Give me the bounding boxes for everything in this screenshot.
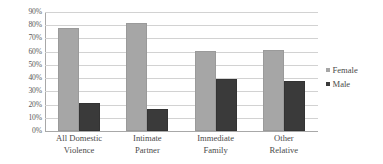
y-axis-tick-label: 90% bbox=[28, 8, 45, 16]
y-axis-tick-label: 20% bbox=[28, 101, 45, 109]
legend-swatch-icon bbox=[326, 82, 330, 86]
y-axis-tick-label: 10% bbox=[28, 114, 45, 122]
category-label: IntimatePartner bbox=[113, 133, 181, 156]
y-axis-tick-label: 70% bbox=[28, 35, 45, 43]
category-label: OtherRelative bbox=[250, 133, 318, 156]
chart-legend: FemaleMale bbox=[326, 63, 383, 91]
bars-layer bbox=[45, 12, 318, 131]
bar-female bbox=[195, 51, 216, 131]
bar-group bbox=[58, 12, 100, 131]
legend-label: Female bbox=[333, 66, 358, 75]
bar-female bbox=[126, 23, 147, 131]
legend-item-female[interactable]: Female bbox=[326, 63, 383, 77]
bar-male bbox=[147, 109, 168, 131]
bar-female bbox=[58, 28, 79, 131]
category-label: All DomesticViolence bbox=[45, 133, 113, 156]
legend-item-male[interactable]: Male bbox=[326, 77, 383, 91]
bar-female bbox=[263, 50, 284, 131]
y-axis-tick-label: 0% bbox=[32, 127, 45, 135]
bar-group bbox=[126, 12, 168, 131]
plot-area: 90%80%70%60%50%40%30%20%10%0% bbox=[45, 12, 318, 131]
bar-group bbox=[195, 12, 237, 131]
bar-male bbox=[216, 79, 237, 131]
y-axis-tick-label: 40% bbox=[28, 74, 45, 82]
bar-male bbox=[284, 81, 305, 131]
bar-male bbox=[79, 103, 100, 131]
y-axis-tick-label: 60% bbox=[28, 48, 45, 56]
category-label: ImmediateFamily bbox=[182, 133, 250, 156]
bar-group bbox=[263, 12, 305, 131]
y-axis-tick-label: 30% bbox=[28, 88, 45, 96]
bar-chart: 90%80%70%60%50%40%30%20%10%0% All Domest… bbox=[0, 0, 383, 164]
y-axis-tick-label: 50% bbox=[28, 61, 45, 69]
legend-swatch-icon bbox=[326, 68, 330, 72]
legend-label: Male bbox=[333, 80, 351, 89]
category-axis-labels: All DomesticViolenceIntimatePartnerImmed… bbox=[45, 132, 318, 164]
y-axis-tick-label: 80% bbox=[28, 21, 45, 29]
